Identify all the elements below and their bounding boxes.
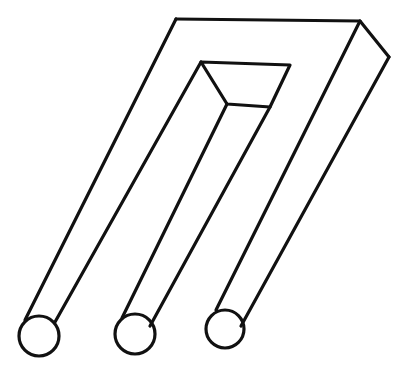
prong-end-left [19, 316, 59, 356]
prong-end-right [206, 310, 244, 348]
prong-ends [19, 310, 244, 356]
prong-end-middle [115, 314, 155, 354]
impossible-trident-drawing [0, 0, 417, 379]
inner-notch [55, 62, 290, 326]
